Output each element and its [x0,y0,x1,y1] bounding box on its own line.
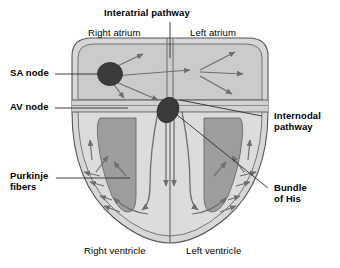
ventricles-region [78,112,262,243]
label-right-atrium: Right atrium [88,28,140,39]
sa-node-marker [98,63,123,86]
label-bundle-of-his: Bundle of His [274,182,307,204]
label-internodal-pathway: Internodal pathway [274,110,321,132]
label-right-ventricle: Right ventricle [84,246,146,257]
label-internodal-pathway-line1: Internodal [274,110,321,121]
label-left-ventricle: Left ventricle [186,246,241,257]
label-bundle-of-his-line1: Bundle [274,182,307,193]
diagram-canvas: Interatrial pathway Right atrium Left at… [0,0,340,268]
label-internodal-pathway-line2: pathway [274,121,321,132]
label-purkinje-fibers-line1: Purkinje [10,170,48,181]
label-av-node: AV node [10,102,49,113]
label-bundle-of-his-line2: of His [274,193,307,204]
label-purkinje-fibers: Purkinje fibers [10,170,48,192]
label-purkinje-fibers-line2: fibers [10,181,48,192]
label-interatrial-pathway: Interatrial pathway [104,8,190,19]
label-sa-node: SA node [10,68,49,79]
heart-conduction-svg [0,0,340,268]
label-left-atrium: Left atrium [190,28,236,39]
